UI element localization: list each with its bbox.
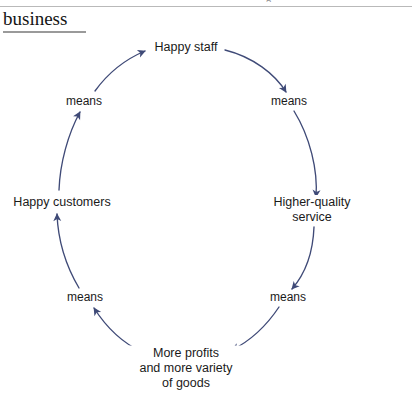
node-means-upper-right: means [271,94,307,108]
arrow-means-ur-to-higher-quality [294,111,316,197]
node-higher-quality-service: Higher-quality service [260,195,364,225]
node-happy-customers: Happy customers [13,195,110,210]
node-means-lower-right: means [270,290,306,304]
node-means-upper-left: means [66,94,102,108]
page-canvas: g business [0,0,412,400]
node-more-profits: More profits and more variety of goods [120,346,252,391]
arrow-means-ll-to-happy-customers [57,214,79,288]
arrow-happy-customers-to-means-ul [59,112,80,190]
node-happy-staff: Happy staff [154,40,217,55]
arrow-means-lr-to-more-profits [232,307,279,350]
arrow-happy-staff-to-means-ur [225,50,286,92]
arrow-means-ul-to-happy-staff [95,51,145,91]
arrow-higher-quality-to-means-lr [292,227,314,289]
virtuous-cycle-diagram: Happy staff means Higher-quality service… [0,0,412,400]
node-means-lower-left: means [67,290,103,304]
